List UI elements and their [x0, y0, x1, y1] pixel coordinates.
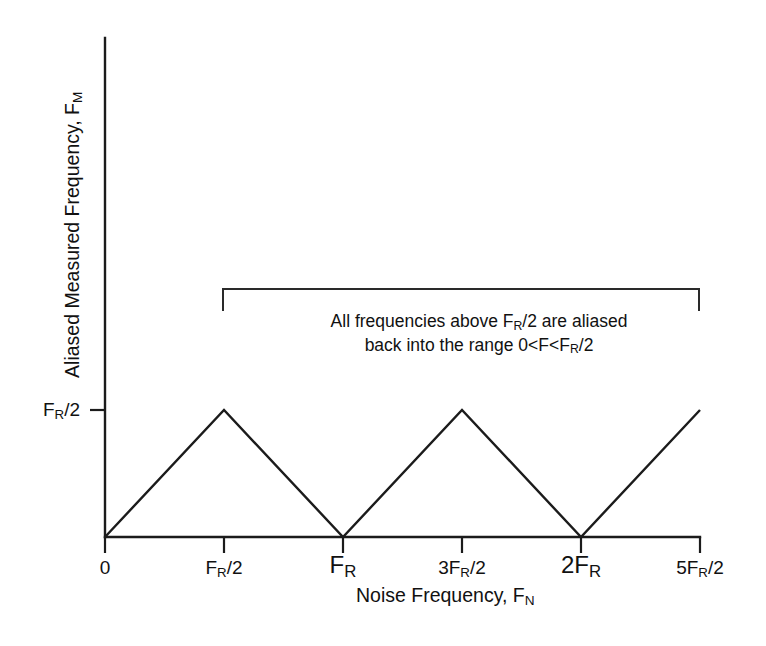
- annotation-line-1-post: /2 are aliased: [522, 311, 627, 331]
- annotation-line-2-pre: back into the range 0<F<F: [365, 335, 570, 355]
- x-tick-label-2fr: 2FR: [536, 553, 626, 577]
- x-tick-label-2fr-main: F: [574, 551, 589, 578]
- x-tick-label-5fr2-prefix: 5: [676, 557, 687, 578]
- x-tick-label-fr-main: F: [330, 551, 345, 578]
- x-tick-label-0-main: 0: [100, 557, 111, 578]
- y-tick-label-fr2-sub: R: [55, 407, 65, 422]
- x-axis-title-text: Noise Frequency, F: [356, 584, 525, 606]
- x-tick-label-3fr2-sub: R: [460, 565, 470, 580]
- annotation-line-1-sub: R: [513, 319, 522, 333]
- x-tick-label-2fr-sub: R: [589, 562, 601, 581]
- annotation-line-2: back into the range 0<F<FR/2: [284, 337, 674, 355]
- range-bracket: [223, 289, 699, 311]
- y-tick-label-fr2: FR/2: [16, 400, 80, 419]
- x-tick-label-fr2: FR/2: [184, 558, 264, 577]
- x-tick-label-fr2-suffix: /2: [227, 557, 243, 578]
- y-tick-label-fr2-suffix: /2: [64, 399, 80, 420]
- y-axis-title: Aliased Measured Frequency, FM: [63, 25, 83, 445]
- y-axis-title-subscript: M: [70, 92, 85, 103]
- x-tick-label-2fr-prefix: 2: [561, 551, 574, 578]
- x-tick-label-fr: FR: [303, 553, 383, 577]
- x-axis-title-subscript: N: [525, 593, 535, 608]
- x-tick-label-3fr2-main: F: [449, 557, 461, 578]
- x-tick-label-5fr2-suffix: /2: [708, 557, 724, 578]
- aliasing-sawtooth-series: [105, 410, 700, 537]
- annotation-line-2-post: /2: [579, 335, 594, 355]
- y-axis-title-text: Aliased Measured Frequency, F: [61, 103, 83, 378]
- x-tick-label-5fr2-sub: R: [698, 565, 708, 580]
- annotation-line-1-pre: All frequencies above F: [331, 311, 514, 331]
- figure-container: Aliased Measured Frequency, FM Noise Fre…: [0, 0, 766, 646]
- annotation-line-1: All frequencies above FR/2 are aliased: [331, 311, 628, 331]
- x-tick-label-5fr2-main: F: [687, 557, 699, 578]
- x-tick-label-fr2-sub: R: [217, 565, 227, 580]
- x-tick-label-3fr2-suffix: /2: [470, 557, 486, 578]
- x-tick-label-3fr2: 3FR/2: [415, 558, 509, 577]
- y-tick-label-fr2-main: F: [43, 399, 55, 420]
- x-tick-label-3fr2-prefix: 3: [438, 557, 449, 578]
- x-tick-label-5fr2: 5FR/2: [653, 558, 747, 577]
- x-tick-label-fr2-main: F: [205, 557, 217, 578]
- annotation-line-2-sub: R: [570, 342, 579, 356]
- x-tick-label-0: 0: [75, 558, 135, 577]
- x-axis-title: Noise Frequency, FN: [356, 586, 535, 606]
- x-axis-ticks: [105, 537, 700, 553]
- x-tick-label-fr-sub: R: [344, 562, 356, 581]
- aliasing-annotation-text: All frequencies above FR/2 are aliased b…: [284, 313, 674, 354]
